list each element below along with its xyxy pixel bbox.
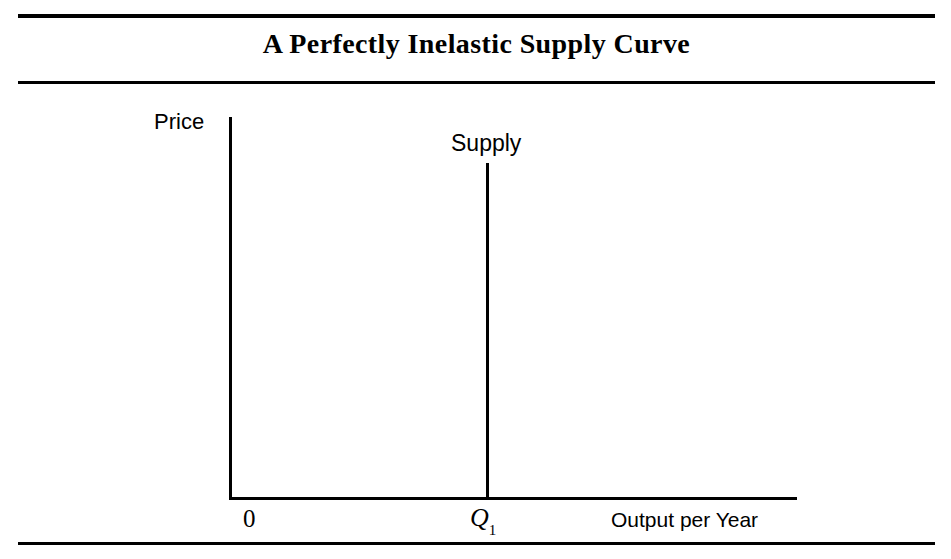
quantity-symbol: Q [470, 503, 489, 532]
quantity-tick-label: Q1 [470, 503, 496, 542]
x-axis-label: Output per Year [611, 508, 758, 531]
x-axis-line [229, 497, 797, 500]
supply-curve-label: Supply [451, 131, 521, 156]
origin-tick-label: 0 [243, 505, 256, 533]
figure-container: A Perfectly Inelastic Supply Curve Price… [0, 0, 951, 559]
bottom-divider-rule [18, 542, 935, 545]
plot-area: Price Supply Output per Year 0 Q1 [0, 0, 951, 559]
quantity-subscript: 1 [489, 522, 497, 538]
y-axis-line [229, 117, 232, 500]
y-axis-label: Price [154, 110, 204, 134]
supply-curve-line [486, 163, 489, 500]
